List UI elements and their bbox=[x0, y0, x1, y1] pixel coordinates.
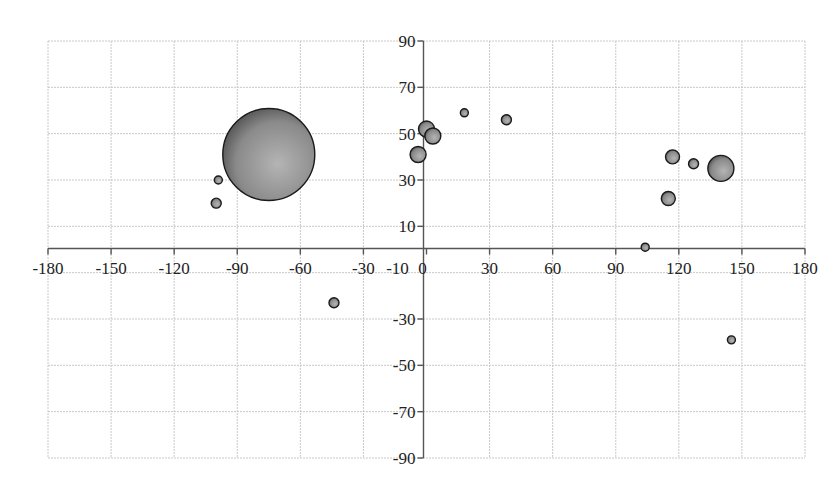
bubble-chart: -180-150-120-90-60-30-100306090120150180… bbox=[0, 0, 837, 487]
y-tick-label: 30 bbox=[399, 171, 416, 190]
x-tick-label: -150 bbox=[95, 259, 126, 278]
x-tick-label: -30 bbox=[352, 259, 375, 278]
bubble-point bbox=[689, 159, 699, 169]
x-tick-label: -180 bbox=[32, 259, 63, 278]
y-tick-label: 50 bbox=[399, 125, 416, 144]
x-tick-label: -10 bbox=[386, 259, 409, 278]
bubble-point bbox=[329, 298, 339, 308]
x-tick-label: 150 bbox=[729, 259, 755, 278]
bubble-point bbox=[223, 109, 315, 201]
x-axis-tick-labels: -180-150-120-90-60-30-100306090120150180 bbox=[32, 259, 817, 278]
x-tick-label: 90 bbox=[607, 259, 624, 278]
bubble-point bbox=[666, 150, 680, 164]
x-tick-label: -90 bbox=[226, 259, 249, 278]
y-tick-label: -30 bbox=[393, 310, 416, 329]
bubble-point bbox=[708, 155, 734, 181]
bubble-point bbox=[214, 176, 222, 184]
x-tick-label: 0 bbox=[418, 259, 427, 278]
y-tick-label: 10 bbox=[399, 217, 416, 236]
y-tick-label: 70 bbox=[399, 78, 416, 97]
y-tick-label: -90 bbox=[393, 449, 416, 468]
bubble-point bbox=[641, 243, 649, 251]
y-tick-label: -70 bbox=[393, 403, 416, 422]
bubble-point bbox=[727, 336, 735, 344]
bubble-point bbox=[410, 147, 426, 163]
bubble-point bbox=[661, 192, 675, 206]
x-tick-label: 120 bbox=[666, 259, 692, 278]
axes bbox=[48, 41, 805, 458]
bubble-point bbox=[211, 198, 221, 208]
y-tick-label: 90 bbox=[399, 32, 416, 51]
x-tick-label: -60 bbox=[289, 259, 312, 278]
x-tick-label: 60 bbox=[544, 259, 561, 278]
bubble-point bbox=[460, 109, 468, 117]
x-tick-label: 180 bbox=[792, 259, 818, 278]
bubble-point bbox=[501, 115, 511, 125]
bubble-point bbox=[425, 128, 441, 144]
x-tick-label: 30 bbox=[481, 259, 498, 278]
y-tick-label: -50 bbox=[393, 356, 416, 375]
y-axis-tick-labels: 9070503010-30-50-70-90 bbox=[393, 32, 416, 468]
x-tick-label: -120 bbox=[159, 259, 190, 278]
